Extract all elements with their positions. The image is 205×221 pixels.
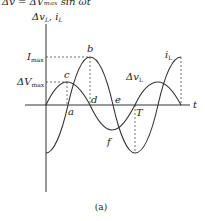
point-e-label: e	[115, 94, 121, 105]
point-T-label: T	[136, 107, 144, 118]
current-curve-label: iL	[165, 49, 172, 61]
point-d-label: d	[91, 94, 97, 105]
figure-caption: (a)	[95, 202, 107, 212]
vmax-label: ΔVmax	[16, 76, 45, 88]
point-c-label: c	[64, 69, 70, 80]
y-axis-label: ΔvL, iL	[31, 11, 62, 23]
equation: Δv = ΔVₘₐₓ sin ωt	[1, 0, 92, 7]
point-a-label: a	[68, 106, 74, 117]
voltage-curve-label: ΔvL	[125, 71, 143, 83]
phase-diagram: Δv = ΔVₘₐₓ sin ωt ΔvL, iL t Imax ΔVmax a…	[0, 0, 205, 221]
x-axis-label: t	[193, 99, 198, 110]
point-b-label: b	[87, 43, 93, 54]
imax-label: Imax	[26, 51, 44, 63]
point-f-label: f	[106, 136, 113, 147]
